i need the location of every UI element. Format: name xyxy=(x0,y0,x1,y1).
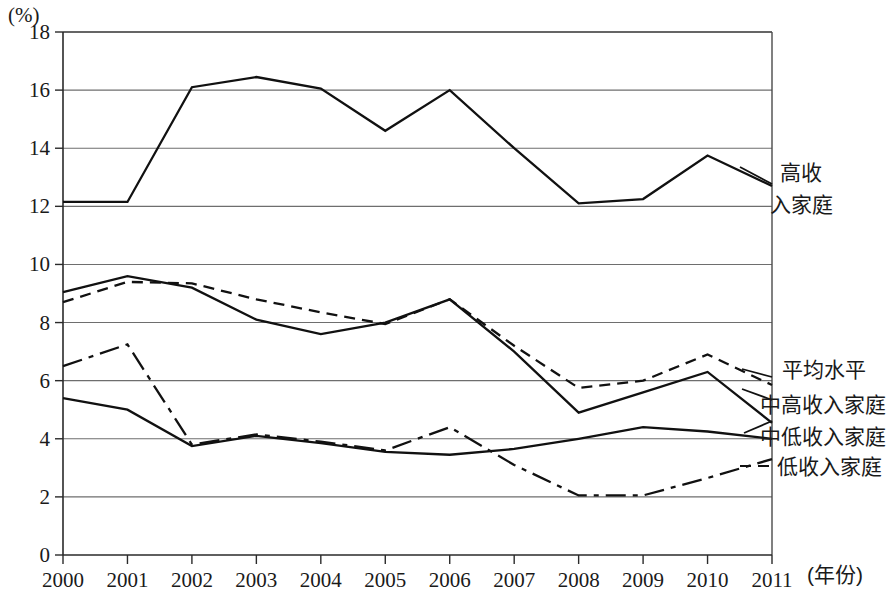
y-tick-label: 0 xyxy=(40,543,51,567)
y-tick-label: 10 xyxy=(29,252,50,276)
x-tick-label: 2011 xyxy=(751,568,792,592)
series-line-3 xyxy=(63,398,772,455)
legend-leader-1 xyxy=(742,369,772,377)
gridlines-group xyxy=(63,32,772,497)
y-tick-label: 16 xyxy=(29,78,50,102)
data-series-group xyxy=(63,77,772,495)
x-tick-label: 2001 xyxy=(106,568,148,592)
series-line-2 xyxy=(63,276,772,423)
series-line-1 xyxy=(63,282,772,388)
series-line-0 xyxy=(63,77,772,203)
y-tick-label: 6 xyxy=(40,369,51,393)
legend-label-upper-middle: 中高收入家庭 xyxy=(760,393,886,416)
y-axis-unit-label: (%) xyxy=(8,3,39,27)
x-tick-label: 2004 xyxy=(300,568,343,592)
y-axis-ticks: 024681012141618 xyxy=(29,20,63,567)
legend-label-lower-middle: 中低收入家庭 xyxy=(760,425,886,448)
legend-leader-0 xyxy=(740,167,772,184)
chart-container: 024681012141618 200020012002200320042005… xyxy=(0,0,895,594)
x-tick-label: 2000 xyxy=(42,568,84,592)
legend-label-average: 平均水平 xyxy=(782,358,866,381)
y-tick-label: 12 xyxy=(29,194,50,218)
y-tick-label: 2 xyxy=(40,485,51,509)
legend-label-high-income-line2: 入家庭 xyxy=(770,193,833,216)
x-axis-ticks: 2000200120022003200420052006200720082009… xyxy=(42,555,793,592)
x-axis-unit-label: (年份) xyxy=(807,563,863,586)
x-tick-label: 2007 xyxy=(493,568,535,592)
line-chart: 024681012141618 200020012002200320042005… xyxy=(0,0,895,594)
x-tick-label: 2008 xyxy=(558,568,600,592)
series-line-4 xyxy=(63,344,772,495)
x-tick-label: 2005 xyxy=(364,568,406,592)
y-tick-label: 8 xyxy=(40,311,51,335)
x-tick-label: 2006 xyxy=(429,568,471,592)
legend-label-low-income: 低收入家庭 xyxy=(777,455,882,478)
x-tick-label: 2010 xyxy=(687,568,729,592)
legend-label-high-income-line1: 高收 xyxy=(780,161,822,184)
x-tick-label: 2009 xyxy=(622,568,664,592)
legend-leader-lines xyxy=(740,167,772,466)
y-tick-label: 4 xyxy=(40,427,51,451)
y-tick-label: 14 xyxy=(29,136,51,160)
x-tick-label: 2003 xyxy=(235,568,277,592)
x-tick-label: 2002 xyxy=(171,568,213,592)
